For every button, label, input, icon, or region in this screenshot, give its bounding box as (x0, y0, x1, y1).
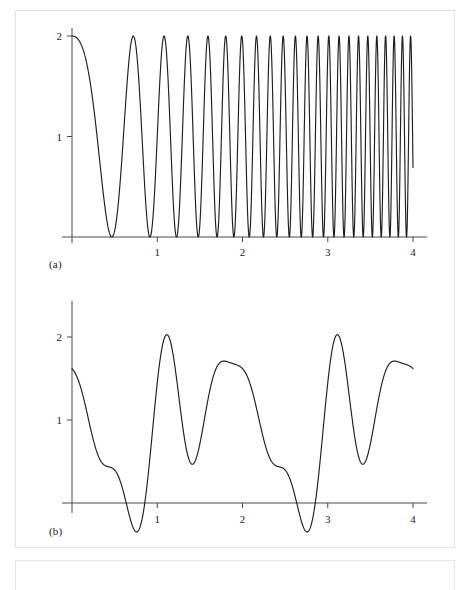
x-tick-label-b-4: 4 (410, 513, 416, 525)
x-tick-label-a-1: 1 (155, 246, 161, 258)
x-tick-label-a-2: 2 (240, 246, 246, 258)
multitone-curve-b (72, 335, 413, 532)
x-tick-label-b-2: 2 (240, 513, 246, 525)
x-tick-label-b-3: 3 (325, 513, 331, 525)
y-tick-label-b-1: 1 (57, 414, 63, 426)
x-tick-label-a-4: 4 (410, 246, 416, 258)
chart-panel-b: 123412 (20, 286, 450, 544)
panel-a-caption: (a) (49, 258, 62, 270)
chart-panel-a: 123412 (20, 14, 450, 276)
panel-b-caption: (b) (49, 525, 62, 537)
y-tick-label-b-2: 2 (57, 331, 63, 343)
x-tick-label-b-1: 1 (155, 513, 161, 525)
chart-b-svg: 123412 (20, 286, 450, 544)
y-tick-label-a-1: 1 (57, 131, 63, 143)
chirp-curve-a (72, 36, 413, 237)
y-tick-label-a-2: 2 (57, 30, 63, 42)
next-figure-frame (15, 560, 455, 590)
x-tick-label-a-3: 3 (325, 246, 331, 258)
chart-a-svg: 123412 (20, 14, 450, 276)
